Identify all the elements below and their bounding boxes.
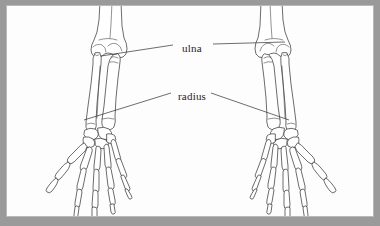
- right-metacarpal-3: [281, 146, 288, 172]
- right-thumb-phalanges: [312, 162, 336, 193]
- left-arm-group: [46, 6, 132, 217]
- left-metacarpal-3: [94, 146, 101, 172]
- left-carpals: [83, 127, 116, 149]
- figure-root: ulna radius: [0, 0, 380, 226]
- right-index-phalanges: [296, 168, 309, 217]
- right-arm-group: [250, 6, 336, 217]
- right-middle-phalanges: [283, 169, 290, 217]
- diagram-canvas: ulna radius: [7, 6, 373, 216]
- left-little-phalanges: [116, 158, 132, 199]
- label-radius: radius: [178, 90, 206, 102]
- diagram-paper: ulna radius: [6, 5, 374, 217]
- right-carpals: [266, 127, 299, 149]
- left-thumb-phalanges: [46, 162, 70, 193]
- skeleton-illustration: [7, 6, 374, 217]
- left-ring-phalanges: [106, 167, 115, 215]
- right-little-phalanges: [250, 158, 266, 199]
- label-ulna: ulna: [182, 42, 202, 54]
- left-metacarpal-4: [104, 144, 111, 170]
- left-index-phalanges: [74, 168, 87, 217]
- left-ulna: [86, 53, 102, 132]
- right-ring-phalanges: [267, 167, 276, 215]
- right-metacarpal-4: [271, 144, 278, 170]
- left-middle-phalanges: [92, 169, 99, 217]
